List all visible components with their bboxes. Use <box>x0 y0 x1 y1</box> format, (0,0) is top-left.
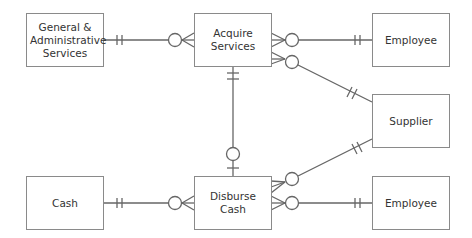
entity-label: Acquire Services <box>208 27 258 53</box>
link-employee-acquire <box>271 33 372 47</box>
entity-employee[interactable]: Employee <box>372 13 450 67</box>
link-cash-disburse <box>103 196 194 210</box>
link-acquire-disburse <box>227 66 240 176</box>
entity-disburse-cash[interactable]: Disburse Cash <box>194 176 272 230</box>
entity-label: Supplier <box>389 115 432 128</box>
entity-supplier[interactable]: Supplier <box>372 94 450 148</box>
entity-employee-2[interactable]: Employee <box>372 176 450 230</box>
link-supplier-acquire <box>271 52 372 102</box>
entity-label: Cash <box>52 197 78 210</box>
entity-label: Disburse Cash <box>208 190 258 216</box>
entity-label: General & Administrative Services <box>30 21 100 60</box>
link-employee2-disburse <box>271 196 372 210</box>
entity-label: Employee <box>385 34 437 47</box>
entity-cash[interactable]: Cash <box>26 176 104 230</box>
link-supplier-disburse <box>271 139 372 193</box>
link-ga-acquire <box>103 33 194 47</box>
entity-general-administrative-services[interactable]: General & Administrative Services <box>26 13 104 67</box>
entity-acquire-services[interactable]: Acquire Services <box>194 13 272 67</box>
entity-label: Employee <box>385 197 437 210</box>
